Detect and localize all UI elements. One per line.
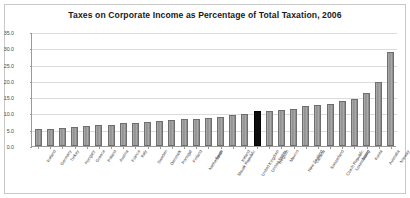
bar[interactable] <box>290 109 297 146</box>
bar[interactable] <box>71 127 78 146</box>
bar[interactable] <box>375 82 382 146</box>
y-axis-tick <box>30 82 32 83</box>
bar[interactable] <box>108 125 115 146</box>
bar[interactable] <box>387 52 394 146</box>
y-axis-tick <box>30 114 32 115</box>
bar[interactable] <box>278 110 285 146</box>
bar[interactable] <box>363 93 370 146</box>
bar[interactable] <box>47 129 54 146</box>
y-axis-tick-label: 10.0 <box>0 111 14 117</box>
gridline <box>32 66 397 67</box>
x-axis-tick-label: Spain <box>214 149 224 161</box>
y-axis-tick-label: 30.0 <box>0 46 14 52</box>
x-axis-labels: IcelandGermanyTurkeyHungaryGreecePolandA… <box>31 149 396 195</box>
y-axis-tick-label: 20.0 <box>0 79 14 85</box>
x-axis-tick-label: Austria <box>118 149 129 163</box>
x-axis-tick-label: Finland <box>192 149 204 163</box>
chart-title: Taxes on Corporate Income as Percentage … <box>0 10 410 20</box>
x-axis-tick-label: Iceland <box>45 149 56 163</box>
x-axis-tick-label: Italy <box>140 149 148 158</box>
plot-area: 0.05.010.015.020.025.030.035.0 <box>31 33 396 147</box>
y-axis-tick <box>30 33 32 34</box>
y-axis-tick-label: 15.0 <box>0 95 14 101</box>
gridline <box>32 33 397 34</box>
bar[interactable] <box>314 105 321 146</box>
bar[interactable] <box>156 121 163 146</box>
x-axis-tick-label: Mexico <box>289 149 300 163</box>
y-axis-tick <box>30 147 32 148</box>
bar[interactable] <box>59 128 66 146</box>
bar[interactable] <box>241 114 248 146</box>
y-axis-tick-label: 5.0 <box>0 128 14 134</box>
bar[interactable] <box>83 126 90 146</box>
x-axis-tick-label: Sweden <box>156 149 168 164</box>
bar[interactable] <box>229 115 236 146</box>
bar[interactable] <box>168 120 175 146</box>
x-axis-tick-label: Hungary <box>83 149 96 165</box>
y-axis-tick-label: 35.0 <box>0 30 14 36</box>
bar[interactable] <box>302 106 309 146</box>
bar[interactable] <box>95 125 102 146</box>
bar[interactable] <box>217 117 224 146</box>
bar[interactable] <box>205 118 212 146</box>
chart-container: Taxes on Corporate Income as Percentage … <box>0 0 410 198</box>
y-axis-tick <box>30 49 32 50</box>
x-axis-tick-label: Denmark <box>169 149 182 166</box>
y-axis-tick-label: 0.0 <box>0 144 14 150</box>
y-axis-tick-label: 25.0 <box>0 63 14 69</box>
bar[interactable] <box>193 119 200 146</box>
bar[interactable] <box>266 111 273 147</box>
x-axis-tick-label: Poland <box>106 149 117 163</box>
y-axis-tick <box>30 131 32 132</box>
x-axis-tick-label: Canada <box>314 149 326 164</box>
bar[interactable] <box>120 123 127 146</box>
bar[interactable] <box>254 111 261 146</box>
bar[interactable] <box>144 122 151 146</box>
bar[interactable] <box>35 129 42 146</box>
bar[interactable] <box>339 101 346 146</box>
y-axis-tick <box>30 98 32 99</box>
gridline <box>32 98 397 99</box>
x-axis-tick-label: Korea <box>373 149 383 161</box>
bar[interactable] <box>132 123 139 146</box>
bar[interactable] <box>327 104 334 146</box>
gridline <box>32 49 397 50</box>
y-axis-tick <box>30 66 32 67</box>
bar[interactable] <box>351 99 358 146</box>
bar[interactable] <box>181 119 188 146</box>
gridline <box>32 82 397 83</box>
x-axis-tick-label: Switzerland <box>329 149 345 170</box>
